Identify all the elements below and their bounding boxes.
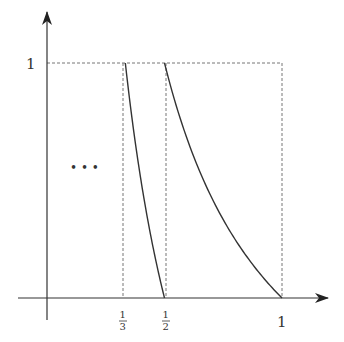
svg-text:2: 2 <box>163 321 169 332</box>
gauss-map-diagram: • • • 1 1 3 1 2 1 <box>0 0 344 342</box>
x-tick-label-half: 1 2 <box>162 309 170 332</box>
curve-branch-n2 <box>125 63 164 298</box>
x-tick-label-third: 1 3 <box>119 309 127 332</box>
svg-text:1: 1 <box>120 309 126 320</box>
ellipsis-dots: • • • <box>70 161 99 175</box>
guide-lines <box>47 63 282 298</box>
curve-branch-n1 <box>165 63 283 298</box>
svg-text:1: 1 <box>163 309 169 320</box>
y-tick-label-1: 1 <box>26 55 36 73</box>
svg-text:3: 3 <box>120 321 126 332</box>
x-tick-label-1: 1 <box>277 313 287 331</box>
